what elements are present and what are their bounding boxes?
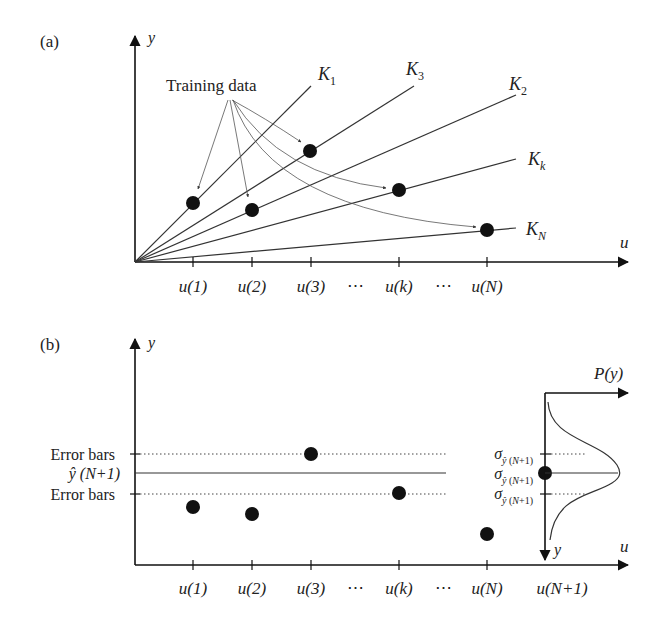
line-k1 [135, 86, 311, 262]
panel-b-y-label: y [146, 334, 156, 352]
svg-text:u(3): u(3) [297, 277, 326, 296]
svg-text:u(2): u(2) [238, 277, 267, 296]
distribution-p-label: P(y) [593, 364, 624, 383]
svg-text:⋯: ⋯ [347, 276, 364, 295]
label-k3: K3 [405, 59, 424, 83]
point-u1 [186, 196, 200, 210]
gaussian-distribution-curve [548, 402, 620, 540]
sigma-label-upper: σŷ (N+1) [494, 445, 533, 467]
error-bars-lower-label: Error bars [51, 486, 115, 503]
label-kk: Kk [527, 149, 546, 173]
error-bars-upper-label: Error bars [51, 446, 115, 463]
svg-text:⋯: ⋯ [435, 578, 452, 597]
panel-a: (a) y u K1 K3 K2 Kk KN Training data [40, 29, 629, 296]
panel-a-tick-labels: u(1) u(2) u(3) ⋯ u(k) ⋯ u(N) [179, 276, 503, 296]
sigma-labels: σŷ (N+1) σŷ (N+1) σŷ (N+1) [494, 445, 533, 507]
label-k1: K1 [317, 64, 336, 88]
svg-text:u(N+1): u(N+1) [536, 579, 587, 598]
sigma-label-mean: σŷ (N+1) [494, 465, 533, 487]
svg-text:u(N): u(N) [471, 277, 503, 296]
svg-text:⋯: ⋯ [435, 276, 452, 295]
panel-b-label: (b) [40, 335, 60, 354]
line-k2 [135, 95, 516, 262]
line-kk [135, 159, 516, 262]
line-k3 [135, 86, 414, 262]
svg-text:u(k): u(k) [385, 579, 413, 598]
panel-b: (b) y u Error bars ŷ (N+1) Error bars [40, 334, 629, 598]
panel-a-data-points [186, 144, 494, 237]
svg-text:u(1): u(1) [179, 277, 208, 296]
figure-canvas: (a) y u K1 K3 K2 Kk KN Training data [0, 0, 668, 635]
point-un [480, 223, 494, 237]
panel-b-x-label: u [620, 537, 629, 556]
panel-a-x-label: u [620, 233, 629, 252]
svg-text:u(k): u(k) [385, 277, 413, 296]
panel-a-label: (a) [40, 32, 59, 51]
point-u3 [303, 144, 317, 158]
label-kn: KN [525, 219, 547, 243]
point-uk [392, 183, 406, 197]
svg-text:u(3): u(3) [297, 579, 326, 598]
point-u2 [245, 203, 259, 217]
svg-text:u(N): u(N) [471, 579, 503, 598]
line-kn [135, 228, 516, 262]
panel-a-y-label: y [146, 29, 156, 47]
svg-text:⋯: ⋯ [347, 578, 364, 597]
svg-text:u(2): u(2) [238, 579, 267, 598]
training-data-label: Training data [166, 76, 257, 95]
sigma-label-lower: σŷ (N+1) [494, 485, 533, 507]
svg-text:u(1): u(1) [179, 579, 208, 598]
panel-b-tick-labels: u(1) u(2) u(3) ⋯ u(k) ⋯ u(N) u(N+1) [179, 578, 588, 598]
yhat-label: ŷ (N+1) [67, 465, 120, 483]
distribution-y-label: y [552, 541, 562, 559]
label-k2: K2 [508, 74, 527, 98]
